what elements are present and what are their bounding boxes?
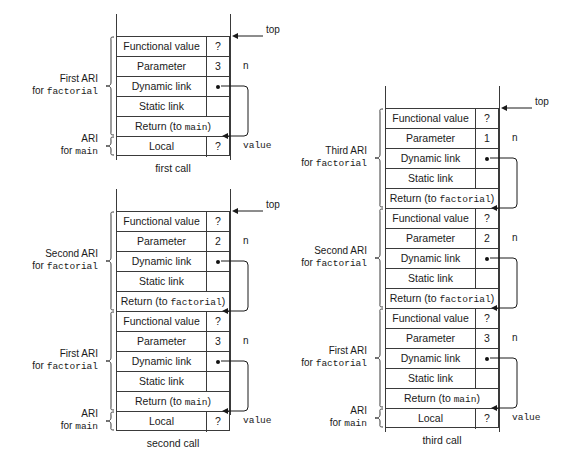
dynamic-link-dot-icon [485, 357, 489, 361]
row-label-static-link: Static link [117, 372, 207, 391]
row-value-parameter: 3 [207, 57, 229, 76]
stack-row-return-link: Return (to factorial) [386, 189, 498, 209]
frame-label-line2: for main [0, 145, 98, 158]
stack-frame-table: Functional value?Parameter3Dynamic linkS… [116, 36, 230, 156]
annotation-n: n [512, 232, 518, 243]
mono-token: main [75, 146, 98, 157]
frame-brace [105, 211, 115, 311]
dynamic-link-dot-icon [485, 157, 489, 161]
frame-label: Second ARIfor factorial [0, 248, 98, 273]
row-value-dynamic-link [207, 77, 229, 96]
frame-label-line2: for factorial [227, 157, 367, 170]
frame-label: First ARIfor factorial [227, 345, 367, 370]
dynamic-link-dot-icon [485, 257, 489, 261]
row-value-static-link [476, 369, 498, 388]
frame-label: ARIfor main [0, 408, 98, 433]
row-label-dynamic-link: Dynamic link [386, 349, 476, 368]
row-label-functional-value: Functional value [117, 312, 207, 331]
row-label-local: Local [117, 137, 207, 157]
frame-label-line2: for factorial [0, 360, 98, 373]
row-label-parameter: Parameter [386, 129, 476, 148]
diagram-caption: third call [385, 434, 499, 446]
frame-label: First ARIfor factorial [0, 348, 98, 373]
frame-label-line1: ARI [0, 133, 98, 145]
frame-brace [374, 408, 384, 428]
mono-token: main [185, 397, 208, 408]
row-label-parameter: Parameter [117, 232, 207, 251]
frame-label-line2: for factorial [227, 357, 367, 370]
mono-token: factorial [316, 158, 367, 169]
frame-label: First ARIfor factorial [0, 73, 98, 98]
stack-row-static-link: Static link [117, 372, 229, 392]
frame-label-line1: First ARI [0, 73, 98, 85]
stack-row-return-link: Return (to main) [386, 389, 498, 409]
top-pointer-arrow-icon [500, 102, 534, 114]
row-label-dynamic-link: Dynamic link [117, 77, 207, 96]
row-label-dynamic-link: Dynamic link [117, 352, 207, 371]
stack-row-dynamic-link: Dynamic link [117, 77, 229, 97]
dynamic-link-dot-icon [216, 360, 220, 364]
stack-row-return-link: Return (to main) [117, 392, 229, 412]
stack-row-dynamic-link: Dynamic link [386, 149, 498, 169]
row-value-functional-value: ? [476, 309, 498, 328]
frame-label: ARIfor main [0, 133, 98, 158]
annotation-n: n [512, 132, 518, 143]
frame-label: Second ARIfor factorial [227, 245, 367, 270]
stack-row-static-link: Static link [386, 269, 498, 289]
stack-row-return-link: Return (to main) [117, 117, 229, 137]
stack-row-dynamic-link: Dynamic link [117, 352, 229, 372]
stack-frame-table: Functional value?Parameter2Dynamic linkS… [116, 211, 230, 431]
row-value-local: ? [207, 412, 229, 432]
row-label-return-link: Return (to factorial) [117, 292, 229, 311]
top-pointer-arrow-icon [231, 30, 265, 42]
row-label-functional-value: Functional value [386, 109, 476, 128]
row-label-return-link: Return (to main) [117, 117, 229, 136]
frame-brace [105, 136, 115, 156]
stack-row-local: Local? [386, 409, 498, 429]
row-label-dynamic-link: Dynamic link [386, 149, 476, 168]
row-value-dynamic-link [207, 352, 229, 371]
frame-label-line2: for factorial [227, 257, 367, 270]
row-value-dynamic-link [476, 349, 498, 368]
row-value-parameter: 3 [207, 332, 229, 351]
row-label-local: Local [117, 412, 207, 432]
row-label-parameter: Parameter [117, 57, 207, 76]
stack-row-parameter: Parameter2 [386, 229, 498, 249]
stack-row-parameter: Parameter1 [386, 129, 498, 149]
row-value-parameter: 2 [207, 232, 229, 251]
top-pointer-arrow-icon [231, 205, 265, 217]
row-label-static-link: Static link [117, 272, 207, 291]
mono-token: factorial [316, 258, 367, 269]
row-label-parameter: Parameter [386, 229, 476, 248]
stack-row-parameter: Parameter3 [117, 332, 229, 352]
row-value-functional-value: ? [207, 212, 229, 231]
stack-row-dynamic-link: Dynamic link [117, 252, 229, 272]
stack-row-functional-value: Functional value? [386, 309, 498, 329]
row-value-static-link [207, 97, 229, 116]
row-label-local: Local [386, 409, 476, 429]
stack-wall-right [230, 14, 231, 160]
stack-row-local: Local? [117, 137, 229, 157]
frame-label-line1: ARI [0, 408, 98, 420]
frame-label-line1: First ARI [0, 348, 98, 360]
frame-label-line1: Second ARI [227, 245, 367, 257]
stack-row-return-link: Return (to factorial) [117, 292, 229, 312]
stack-row-local: Local? [117, 412, 229, 432]
mono-token: main [75, 421, 98, 432]
dynamic-link-dot-icon [216, 85, 220, 89]
row-value-static-link [476, 269, 498, 288]
frame-label-line1: Third ARI [227, 145, 367, 157]
row-value-local: ? [207, 137, 229, 157]
row-label-return-link: Return (to main) [386, 389, 498, 408]
dynamic-link-dot-icon [216, 260, 220, 264]
row-label-return-link: Return (to main) [117, 392, 229, 411]
stack-row-dynamic-link: Dynamic link [386, 249, 498, 269]
mono-token: factorial [439, 294, 490, 305]
frame-label-line2: for main [227, 417, 367, 430]
frame-label-line1: ARI [227, 405, 367, 417]
frame-brace [105, 311, 115, 411]
row-label-dynamic-link: Dynamic link [117, 252, 207, 271]
stack-row-functional-value: Functional value? [117, 312, 229, 332]
stack-row-static-link: Static link [386, 369, 498, 389]
row-label-functional-value: Functional value [386, 309, 476, 328]
